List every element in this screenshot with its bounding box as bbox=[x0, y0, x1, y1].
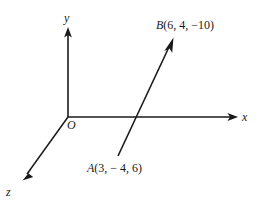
point-label-b: B(6, 4, −10) bbox=[156, 19, 214, 31]
vector-line bbox=[118, 47, 169, 156]
point-a-coords: (3, − 4, 6) bbox=[94, 161, 142, 175]
vector-arrow-icon bbox=[164, 38, 173, 54]
vector-AB bbox=[118, 38, 174, 157]
point-b-coords: (6, 4, −10) bbox=[163, 18, 214, 32]
point-label-a: A(3, − 4, 6) bbox=[87, 162, 142, 174]
z-axis-label: z bbox=[6, 186, 11, 198]
z-axis-line bbox=[27, 117, 68, 174]
x-axis-label: x bbox=[242, 111, 247, 123]
y-axis bbox=[64, 27, 72, 117]
z-axis-arrow-icon bbox=[23, 169, 34, 181]
y-axis-label: y bbox=[64, 12, 69, 24]
diagram-canvas bbox=[0, 0, 263, 208]
coordinate-diagram: y x z O B(6, 4, −10) A(3, − 4, 6) bbox=[0, 0, 263, 208]
x-axis bbox=[68, 113, 238, 121]
origin-label: O bbox=[67, 119, 76, 131]
z-axis bbox=[23, 117, 69, 181]
